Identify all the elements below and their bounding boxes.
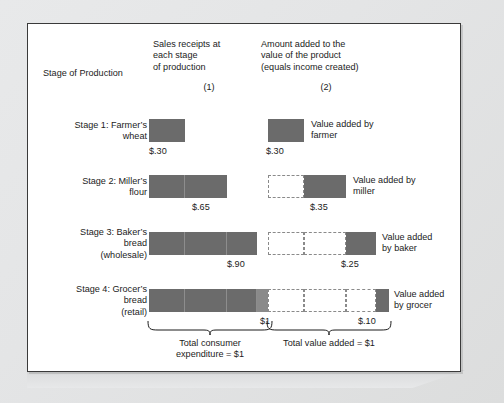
header-stage-of-production: Stage of Production — [43, 68, 163, 79]
receipts-value-3: $.90 — [227, 259, 245, 269]
page-curl-bottom — [27, 370, 465, 388]
receipts-bar-3-added — [227, 232, 257, 255]
receipts-value-1: $.30 — [149, 146, 167, 156]
value-added-amount-1: $.30 — [266, 146, 284, 156]
header-column-2-title: Amount added to the value of the product… — [261, 39, 411, 73]
value-added-prior-3-2 — [304, 232, 346, 255]
receipts-bar-4-prior-1 — [149, 289, 185, 312]
receipts-bar-3-prior-1 — [149, 232, 185, 255]
stage-label-4: Stage 4: Grocer’s bread (retail) — [34, 284, 147, 318]
brace-total-value-added — [266, 320, 392, 336]
header-column-2-number: (2) — [261, 82, 391, 93]
value-added-prior-4-2 — [304, 289, 346, 312]
header-column-1-title: Sales receipts at each stage of producti… — [153, 39, 265, 73]
receipts-bar-1 — [149, 119, 185, 142]
stage-label-1: Stage 1: Farmer’s wheat — [34, 120, 147, 143]
value-added-amount-3: $.25 — [341, 259, 359, 269]
value-added-bar-4 — [376, 289, 389, 312]
value-added-label-1: Value added by farmer — [311, 119, 374, 142]
value-added-label-2: Value added by miller — [353, 175, 416, 198]
value-added-prior-3-1 — [268, 232, 304, 255]
value-added-label-3: Value added by baker — [382, 232, 432, 255]
receipts-value-2: $.65 — [192, 202, 210, 212]
receipts-bar-2-prior — [149, 175, 185, 198]
value-added-bar-1 — [268, 119, 304, 142]
brace-total-consumer-expenditure — [147, 320, 273, 336]
stage-label-2: Stage 2: Miller’s flour — [34, 176, 147, 199]
value-added-bar-3 — [346, 232, 376, 255]
figure-sheet: Stage of Production Sales receipts at ea… — [27, 23, 461, 372]
receipts-bar-2-added — [185, 175, 227, 198]
value-added-prior-4-1 — [268, 289, 304, 312]
header-column-1-number: (1) — [153, 82, 265, 93]
value-added-prior-4-3 — [346, 289, 376, 312]
total-consumer-expenditure-label: Total consumer expenditure = $1 — [147, 338, 273, 361]
page-background: Stage of Production Sales receipts at ea… — [0, 0, 504, 403]
value-added-bar-2 — [304, 175, 346, 198]
receipts-bar-4-prior-3 — [227, 289, 257, 312]
receipts-bar-4-prior-2 — [185, 289, 227, 312]
total-value-added-label: Total value added = $1 — [258, 338, 400, 349]
value-added-amount-2: $.35 — [310, 202, 328, 212]
stage-label-3: Stage 3: Baker’s bread (wholesale) — [34, 227, 147, 261]
value-added-label-4: Value added by grocer — [394, 289, 444, 312]
value-added-prior-2 — [268, 175, 304, 198]
receipts-bar-3-prior-2 — [185, 232, 227, 255]
